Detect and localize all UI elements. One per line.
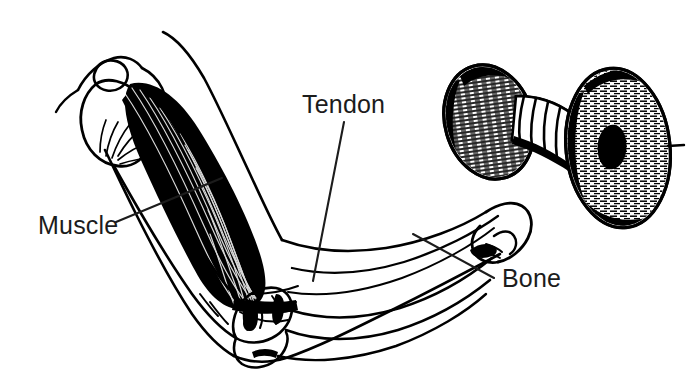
label-muscle: Muscle <box>38 211 118 239</box>
label-tendon: Tendon <box>302 90 385 118</box>
anatomy-illustration: Muscle Tendon Bone <box>0 0 692 381</box>
anatomy-figure: Muscle Tendon Bone <box>0 0 692 381</box>
label-bone: Bone <box>502 264 561 292</box>
